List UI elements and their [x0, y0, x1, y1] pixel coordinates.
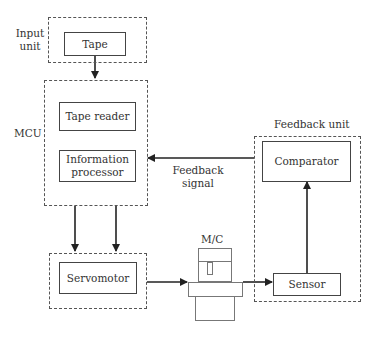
comparator-box: Comparator [262, 141, 351, 182]
tape-box: Tape [64, 32, 126, 56]
servomotor-box: Servomotor [59, 262, 137, 294]
mcu-label: MCU [14, 127, 42, 140]
sensor-box: Sensor [273, 273, 341, 296]
feedback-signal-label: Feedback signal [172, 164, 224, 190]
input-unit-label: Input unit [14, 27, 46, 53]
machine-label: M/C [201, 233, 223, 246]
mcu-group [44, 80, 148, 206]
feedback-unit-label: Feedback unit [274, 118, 350, 131]
information-processor-box: Information processor [59, 150, 136, 182]
tape-reader-box: Tape reader [59, 102, 136, 131]
